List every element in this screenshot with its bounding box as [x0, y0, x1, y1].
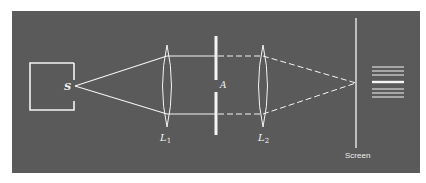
source-label: S: [64, 81, 71, 92]
aperture-label: A: [219, 80, 227, 90]
screen-label: Screen: [345, 151, 370, 160]
lens-2-subscript: 2: [265, 137, 269, 145]
fringe-pattern: [372, 67, 404, 97]
lens-1-subscript: 1: [167, 137, 171, 145]
optics-diagram: S L1 A L2 Screen: [0, 0, 426, 183]
